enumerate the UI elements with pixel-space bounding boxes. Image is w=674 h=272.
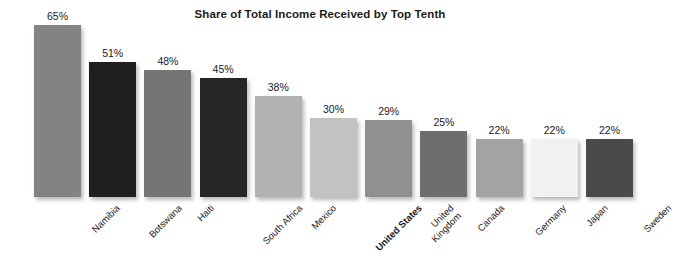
bar[interactable] — [531, 139, 578, 197]
axis-label-united-states: United States — [374, 203, 424, 253]
axis-label-line: Japan — [584, 203, 610, 229]
bar[interactable] — [89, 62, 136, 197]
axis-label-haiti: Haiti — [196, 203, 217, 224]
axis-label-botswana: Botswana — [147, 203, 184, 240]
axis-label-line: Sweden — [642, 203, 674, 235]
bar[interactable] — [255, 96, 302, 197]
bar-group: 65% — [34, 0, 81, 197]
axis-label-namibia: Namibia — [90, 203, 122, 235]
bar[interactable] — [365, 120, 412, 197]
bar[interactable] — [34, 25, 81, 197]
bar[interactable] — [420, 131, 467, 197]
bar-group: 22% — [476, 0, 523, 197]
axis-label-japan: Japan — [584, 203, 610, 229]
bar-group: 22% — [531, 0, 578, 197]
axis-label-line: Germany — [533, 203, 568, 238]
bar-group: 22% — [586, 0, 633, 197]
axis-label-mexico: Mexico — [310, 203, 339, 232]
bar-group: 29% — [365, 0, 412, 197]
axis-label-line: South Africa — [261, 203, 305, 247]
axis-label-line: Botswana — [147, 203, 184, 240]
axis-label-united-kingdom: UnitedKingdom — [422, 203, 463, 244]
axis-label-south-africa: South Africa — [261, 203, 305, 247]
bar-group: 48% — [144, 0, 191, 197]
bar[interactable] — [586, 139, 633, 197]
bar[interactable] — [476, 139, 523, 197]
axis-label-line: Haiti — [196, 203, 217, 224]
axis-label-line: Canada — [476, 203, 507, 234]
bar[interactable] — [200, 78, 247, 197]
axis-label-line: Mexico — [310, 203, 339, 232]
bar-value-label: 38% — [243, 81, 314, 93]
bar-value-label: 22% — [574, 124, 645, 136]
bar-value-label: 45% — [188, 63, 259, 75]
axis-label-canada: Canada — [476, 203, 507, 234]
axis-label-line: Namibia — [90, 203, 122, 235]
axis-label-line: United States — [374, 203, 424, 253]
bar-group: 45% — [200, 0, 247, 197]
bar[interactable] — [310, 118, 357, 197]
bar-group: 25% — [420, 0, 467, 197]
bar-group: 51% — [89, 0, 136, 197]
bar-group: 30% — [310, 0, 357, 197]
axis-label-sweden: Sweden — [642, 203, 674, 235]
bar-value-label: 65% — [22, 10, 93, 22]
bar-group: 38% — [255, 0, 302, 197]
axis-label-germany: Germany — [533, 203, 568, 238]
bar[interactable] — [144, 70, 191, 197]
